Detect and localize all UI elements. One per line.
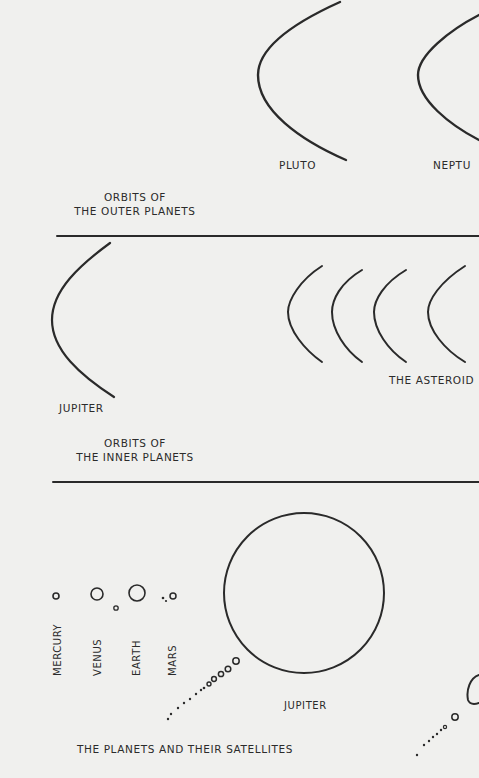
venus-label: VENUS [92, 639, 103, 676]
outer-caption: ORBITS OF THE OUTER PLANETS [60, 190, 210, 218]
mars-circle [170, 593, 176, 599]
pluto-orbit [258, 2, 346, 160]
inner-caption: ORBITS OF THE INNER PLANETS [60, 436, 210, 464]
asteroid-orbit-2 [332, 270, 362, 362]
asteroid-orbit-1 [288, 266, 322, 362]
neptune-label: NEPTU [433, 159, 471, 171]
asteroids-label: THE ASTEROID [389, 374, 474, 386]
outer-caption-line2: THE OUTER PLANETS [60, 204, 210, 218]
pluto-label: PLUTO [279, 159, 316, 171]
planets-caption: THE PLANETS AND THEIR SATELLITES [77, 743, 293, 755]
venus-circle [91, 588, 103, 600]
asteroid-orbit-3 [374, 270, 406, 362]
outer-caption-line1: ORBITS OF [60, 190, 210, 204]
jupiter-orbit-label: JUPITER [59, 402, 104, 414]
asteroid-orbit-4 [428, 266, 465, 362]
jupiter-circle [224, 513, 384, 673]
jupiter-orbit [52, 243, 114, 397]
jupiter-planet-label: JUPITER [284, 700, 327, 711]
earth-label: EARTH [131, 640, 142, 676]
inner-caption-line1: ORBITS OF [60, 436, 210, 450]
earth-circle [129, 585, 145, 601]
saturn-fragment [467, 675, 479, 704]
diagram-art [0, 0, 479, 778]
mars-label: MARS [167, 645, 178, 676]
mercury-circle [53, 593, 59, 599]
neptune-orbit [418, 15, 479, 140]
mercury-label: MERCURY [52, 624, 63, 676]
venus-satellite [114, 606, 118, 610]
inner-caption-line2: THE INNER PLANETS [60, 450, 210, 464]
